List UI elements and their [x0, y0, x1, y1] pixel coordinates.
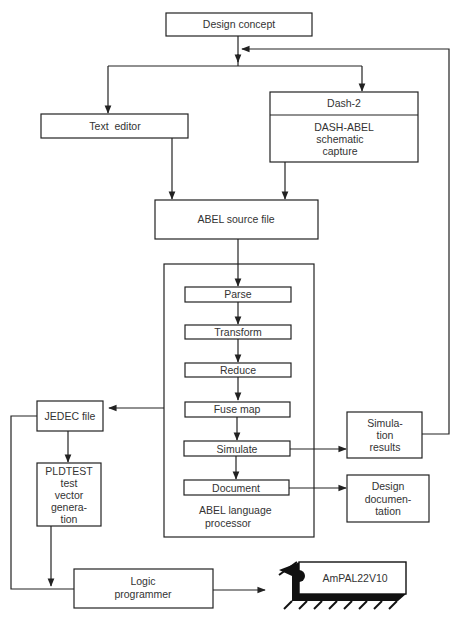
dash2-line-1: DASH-ABEL — [314, 121, 374, 133]
step-transform-label: Transform — [214, 326, 262, 338]
pldtest-line-5: tion — [61, 513, 78, 525]
step-parse-label: Parse — [224, 288, 252, 300]
step-reduce-label: Reduce — [220, 364, 256, 376]
design-doc-line-3: tation — [375, 505, 401, 517]
dash2-line-3: capture — [322, 145, 357, 157]
dash2-line-2: schematic — [316, 133, 363, 145]
node-logic-programmer: Logic programmer — [74, 569, 213, 608]
node-jedec-file: JEDEC file — [37, 401, 103, 431]
step-document-label: Document — [212, 482, 260, 494]
step-simulate-label: Simulate — [217, 443, 258, 455]
node-dash2: Dash-2 DASH-ABEL schematic capture — [270, 92, 418, 162]
step-reduce: Reduce — [185, 363, 291, 377]
node-pldtest: PLDTEST test vector genera- tion — [37, 463, 101, 526]
node-simulation-results: Simula- tion results — [347, 412, 422, 458]
node-design-concept: Design concept — [166, 13, 312, 36]
sim-results-line-3: results — [370, 441, 401, 453]
abel-flow-diagram: Design concept Text editor Dash-2 DASH-A… — [0, 0, 459, 618]
sim-results-line-2: tion — [377, 429, 394, 441]
ic-chip-icon: AmPAL22V10 — [279, 562, 406, 609]
design-doc-line-2: documen- — [365, 493, 412, 505]
processor-title-1: ABEL language — [199, 504, 272, 516]
chip-label: AmPAL22V10 — [322, 572, 387, 584]
pldtest-line-3: vector — [55, 489, 84, 501]
dash2-header: Dash-2 — [327, 97, 361, 109]
step-parse: Parse — [185, 287, 291, 302]
design-concept-label: Design concept — [203, 18, 275, 30]
step-simulate: Simulate — [184, 441, 290, 456]
logic-programmer-line-2: programmer — [114, 588, 172, 600]
node-abel-processor: ABEL language processor Parse Transform … — [164, 264, 314, 537]
design-doc-line-1: Design — [372, 480, 405, 492]
step-document: Document — [184, 480, 289, 495]
text-editor-label: Text editor — [89, 120, 141, 132]
node-text-editor: Text editor — [41, 114, 188, 138]
jedec-label: JEDEC file — [45, 410, 96, 422]
step-transform: Transform — [185, 325, 291, 339]
sim-results-line-1: Simula- — [367, 417, 403, 429]
logic-programmer-line-1: Logic — [130, 575, 155, 587]
step-fuse-map: Fuse map — [185, 402, 290, 417]
processor-title-2: processor — [205, 517, 252, 529]
node-abel-source: ABEL source file — [155, 200, 318, 239]
step-fuse-map-label: Fuse map — [214, 403, 261, 415]
pldtest-line-4: genera- — [51, 501, 88, 513]
node-design-documentation: Design documen- tation — [347, 475, 429, 522]
abel-source-label: ABEL source file — [197, 213, 274, 225]
pldtest-line-2: test — [61, 477, 78, 489]
pldtest-line-1: PLDTEST — [45, 465, 93, 477]
